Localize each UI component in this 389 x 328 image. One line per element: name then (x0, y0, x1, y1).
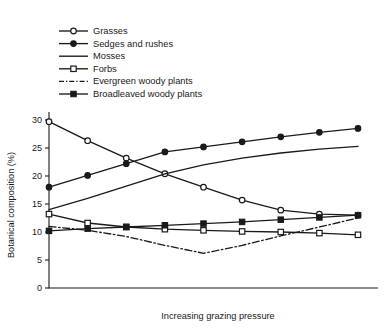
y-axis-tick-label: 30 (32, 115, 42, 125)
marker-open-square (85, 220, 90, 225)
marker-filled-square (85, 226, 90, 231)
legend-label: Evergreen woody plants (93, 76, 193, 86)
x-axis-title: Increasing grazing pressure (161, 311, 274, 321)
y-axis-tick-label: 0 (37, 283, 42, 293)
legend-marker-open-square (71, 66, 76, 71)
legend-label: Sedges and rushes (93, 39, 173, 49)
legend-label: Grasses (93, 26, 128, 36)
marker-filled-circle (239, 139, 245, 145)
legend-marker-filled-circle (71, 41, 77, 47)
marker-filled-square (162, 223, 167, 228)
marker-open-circle (278, 207, 284, 213)
marker-open-circle (123, 155, 129, 161)
y-axis-tick-label: 20 (32, 171, 42, 181)
marker-filled-square (239, 219, 244, 224)
marker-open-square (355, 232, 360, 237)
series-line-grasses (49, 122, 358, 216)
chart-figure: GrassesSedges and rushesMossesForbsEverg… (0, 0, 389, 328)
marker-filled-circle (201, 144, 207, 150)
marker-open-square (317, 230, 322, 235)
y-axis-tick-label: 15 (32, 199, 42, 209)
marker-open-square (239, 229, 244, 234)
marker-filled-circle (85, 173, 91, 179)
marker-filled-circle (123, 161, 129, 167)
marker-filled-circle (317, 130, 323, 136)
marker-open-square (46, 211, 51, 216)
y-axis-tick-label: 25 (32, 143, 42, 153)
legend-label: Mosses (93, 51, 125, 61)
legend-marker-open-circle (71, 28, 77, 34)
marker-filled-circle (278, 134, 284, 140)
chart-series (46, 119, 361, 253)
marker-filled-square (46, 228, 51, 233)
y-axis-tick-label: 5 (37, 255, 42, 265)
marker-open-circle (239, 197, 245, 203)
y-axis-tick-label: 10 (32, 227, 42, 237)
marker-filled-circle (162, 149, 168, 155)
marker-filled-circle (355, 126, 361, 132)
marker-open-circle (201, 184, 207, 190)
marker-filled-square (201, 221, 206, 226)
marker-open-square (278, 229, 283, 234)
chart-legend: GrassesSedges and rushesMossesForbsEverg… (59, 26, 202, 99)
series-line-sedges-and-rushes (49, 128, 358, 187)
marker-open-circle (46, 119, 52, 125)
marker-open-square (201, 228, 206, 233)
botanical-composition-line-chart: GrassesSedges and rushesMossesForbsEverg… (0, 0, 389, 328)
series-line-mosses (49, 146, 358, 209)
legend-label: Forbs (93, 64, 117, 74)
marker-filled-square (124, 224, 129, 229)
y-axis-title: Botanical composition (%) (6, 152, 16, 258)
marker-filled-circle (46, 184, 52, 190)
marker-open-circle (85, 138, 91, 144)
marker-filled-square (278, 217, 283, 222)
marker-filled-square (317, 215, 322, 220)
marker-filled-square (355, 213, 360, 218)
legend-marker-filled-square (71, 91, 76, 96)
legend-label: Broadleaved woody plants (93, 89, 202, 99)
